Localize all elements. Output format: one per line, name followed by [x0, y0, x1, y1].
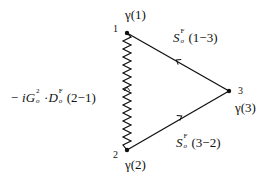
superscript: 2 [36, 88, 40, 95]
vertex-dot-2 [125, 148, 129, 152]
propagator-label-3-2: SFo(3−2) [176, 136, 221, 149]
photon-line-wavy [123, 33, 131, 150]
subscript: o [36, 98, 40, 105]
vertex-1-label: 1 [113, 24, 118, 34]
argument: (1−3) [189, 30, 218, 45]
superscript: F [59, 88, 63, 95]
photon-propagator-symbol: D [48, 90, 57, 105]
coupling-symbol: G [26, 90, 35, 105]
argument: (3−2) [192, 135, 221, 150]
subscript: o [181, 38, 185, 45]
vertex-2-label: 2 [113, 150, 118, 160]
vertex-2-factor: γ(2) [125, 158, 146, 171]
arrow-icon-lower [177, 113, 183, 120]
superscript: F [184, 133, 188, 140]
vertex-dot-1 [125, 31, 129, 35]
subscript: o [184, 143, 188, 150]
propagator-label-1-3: SFo(1−3) [173, 31, 218, 44]
photon-label: − iG2o·DFo(2−1) [10, 91, 96, 104]
prefix: − i [10, 90, 26, 105]
vertex-1-factor: γ(1) [125, 8, 146, 21]
subscript: o [59, 98, 63, 105]
superscript: F [181, 28, 185, 35]
argument: (2−1) [67, 90, 96, 105]
vertex-3-factor: γ(3) [235, 101, 256, 114]
vertex-3-label: 3 [238, 86, 243, 96]
vertex-dot-3 [227, 89, 231, 93]
